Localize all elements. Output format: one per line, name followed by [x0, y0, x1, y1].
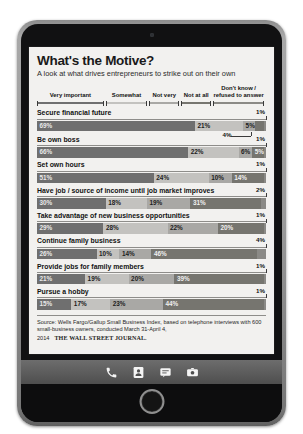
bar-segment: 22% — [188, 147, 238, 158]
legend-label: Very important — [37, 92, 104, 99]
bar-segment: 14% — [119, 249, 151, 260]
legend-swatch — [37, 101, 104, 106]
bar-callout-above: 1% — [256, 212, 265, 218]
bar-segment-value: 18% — [106, 200, 121, 206]
bar-segment-value: 14% — [119, 251, 134, 257]
bar-segment-value: 44% — [163, 301, 178, 307]
camera-icon[interactable] — [185, 365, 199, 379]
stacked-bar: 66%22%6%5% — [37, 147, 266, 158]
callout-leader — [266, 244, 267, 248]
bar-segment: 21% — [37, 274, 85, 285]
legend-item-2: Somewhat — [106, 92, 150, 106]
bar-segment: 51% — [37, 173, 154, 184]
bar-row-label: Pursue a hobby — [37, 288, 266, 298]
callout-leader — [266, 193, 267, 197]
bar-callout-above: 1% — [256, 109, 265, 115]
bar-segment-value: 10% — [209, 175, 224, 181]
bar-segment — [261, 198, 266, 209]
tablet-bezel: What's the Motive? A look at what drives… — [21, 24, 282, 422]
bar-segment: 5% — [243, 121, 254, 132]
messages-icon[interactable] — [158, 365, 172, 379]
bar-segment — [264, 299, 266, 310]
bar-segment: 28% — [103, 223, 167, 234]
stacked-bar: 51%24%10%14% — [37, 173, 266, 184]
legend-label: Somewhat — [106, 92, 148, 99]
bar-callout-above: 1% — [256, 288, 265, 294]
callout-leader — [266, 143, 267, 147]
bar-segment — [264, 121, 266, 132]
bar-segment-value: 5% — [252, 149, 264, 155]
bar-segment: 17% — [71, 299, 110, 310]
bar-row: Take advantage of new business opportuni… — [37, 212, 266, 234]
bar-row: Provide jobs for family members21%19%20%… — [37, 263, 266, 285]
phone-icon[interactable] — [104, 365, 118, 379]
bar-segment-value: 20% — [218, 225, 233, 231]
callout-leader — [266, 116, 267, 120]
home-button[interactable] — [139, 389, 164, 414]
bar-segment — [264, 147, 266, 158]
bar-segment-value: 28% — [103, 225, 118, 231]
bar-segment — [264, 223, 266, 234]
bar-segment: 26% — [37, 249, 97, 260]
bar-callout-above: 1% — [256, 161, 265, 167]
legend-swatch — [149, 101, 179, 106]
bar-segment: 6% — [239, 147, 253, 158]
bar-segment: 21% — [195, 121, 243, 132]
contacts-icon[interactable] — [131, 365, 145, 379]
tablet-device: What's the Motive? A look at what drives… — [17, 20, 286, 426]
bar-segment: 66% — [37, 147, 188, 158]
bar-segment: 15% — [37, 299, 71, 310]
legend-item-1: Very important — [37, 92, 106, 106]
bar-segment: 20% — [218, 223, 264, 234]
bar-segment-value: 26% — [37, 251, 52, 257]
bar-row: Secure financial future69%21%5%4%1% — [37, 109, 266, 131]
bar-row: Be own boss66%22%6%5%1% — [37, 136, 266, 158]
bar-row-label: Provide jobs for family members — [37, 263, 266, 273]
bar-segment-value: 51% — [37, 175, 52, 181]
bar-callout-above: 4% — [256, 237, 265, 243]
bar-segment: 46% — [151, 249, 256, 260]
tablet-screen[interactable]: What's the Motive? A look at what drives… — [29, 47, 274, 354]
bar-segment-value: 19% — [85, 276, 100, 282]
legend-swatch — [213, 101, 264, 106]
bar-segment-value: 29% — [37, 225, 52, 231]
bar-segment: 39% — [174, 274, 263, 285]
legend-label: Don't know / refused to answer — [213, 85, 264, 99]
bar-segment-value: 19% — [147, 200, 162, 206]
front-camera-icon — [150, 33, 154, 37]
legend-label: Not at all — [181, 92, 211, 99]
bar-segment-value: 14% — [232, 175, 247, 181]
bar-rows: Secure financial future69%21%5%4%1%Be ow… — [37, 109, 266, 309]
bar-segment-value: 23% — [110, 301, 125, 307]
bar-segment-value: 21% — [37, 276, 52, 282]
bar-segment: 69% — [37, 121, 195, 132]
tablet-dock — [21, 360, 282, 384]
bar-segment-value: 22% — [168, 225, 183, 231]
bar-row-label: Set own hours — [37, 161, 266, 171]
stacked-bar: 21%19%20%39% — [37, 274, 266, 285]
legend-item-5: Don't know / refused to answer — [213, 85, 266, 106]
bar-segment-value: 30% — [37, 200, 52, 206]
page-subtitle: A look at what drives entrepreneurs to s… — [37, 70, 266, 78]
legend-swatch — [106, 101, 148, 106]
bar-segment-value: 10% — [97, 251, 112, 257]
bar-segment-value: 22% — [188, 149, 203, 155]
legend-label: Not very — [149, 92, 179, 99]
bar-segment-value: 6% — [239, 149, 251, 155]
bar-row-label: Be own boss — [37, 136, 266, 146]
stacked-bar: 26%10%14%46% — [37, 249, 266, 260]
bar-segment — [264, 274, 266, 285]
callout-leader — [266, 168, 267, 172]
chart-panel: What's the Motive? A look at what drives… — [29, 47, 274, 354]
bar-segment: 22% — [168, 223, 218, 234]
bar-segment-value: 24% — [154, 175, 169, 181]
bar-row-label: Take advantage of new business opportuni… — [37, 212, 266, 222]
callout-leader — [266, 219, 267, 223]
bar-segment-value: 5% — [243, 123, 255, 129]
bar-row: Have job / source of income until job ma… — [37, 187, 266, 209]
bar-segment-value: 31% — [190, 200, 205, 206]
bar-segment: 19% — [147, 198, 191, 209]
bar-row: Continue family business26%10%14%46%4% — [37, 237, 266, 259]
bar-segment: 44% — [163, 299, 264, 310]
legend-item-3: Not very — [149, 92, 181, 106]
